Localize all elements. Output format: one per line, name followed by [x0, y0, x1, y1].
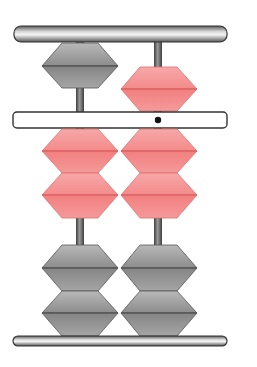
abacus-diagram — [0, 0, 257, 367]
heaven-bead-column-1[interactable] — [42, 43, 118, 88]
top-frame-bar — [14, 26, 227, 42]
bottom-frame-bar — [13, 336, 227, 346]
earth-bead-column-2-2[interactable] — [121, 173, 197, 218]
earth-bead-column-1-2[interactable] — [42, 173, 118, 218]
earth-bead-column-2-3[interactable] — [121, 245, 197, 291]
reckoning-beam — [13, 112, 227, 128]
earth-bead-column-1-3[interactable] — [42, 245, 118, 291]
earth-bead-column-2-1[interactable] — [121, 129, 197, 173]
heaven-bead-column-2[interactable] — [121, 67, 197, 111]
earth-bead-column-1-4[interactable] — [42, 291, 118, 336]
unit-dot — [155, 117, 161, 123]
earth-bead-column-2-4[interactable] — [121, 291, 197, 336]
earth-bead-column-1-1[interactable] — [42, 129, 118, 173]
